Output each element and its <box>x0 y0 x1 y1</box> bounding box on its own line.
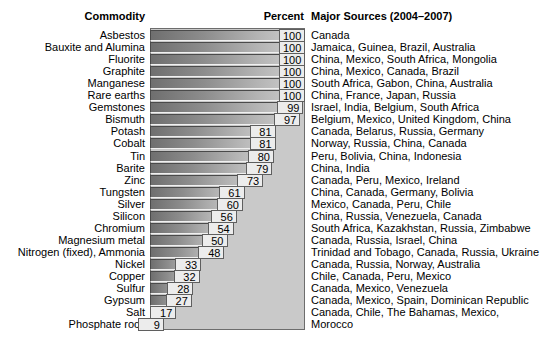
percent-value-label: 100 <box>279 65 305 78</box>
percent-value-label: 27 <box>166 294 192 307</box>
percent-value-label: 32 <box>174 270 200 283</box>
commodity-label: Bismuth <box>0 113 145 126</box>
major-sources-text: China, Russia, Venezuela, Canada <box>311 210 482 223</box>
table-row: Manganese100South Africa, Gabon, China, … <box>0 77 555 90</box>
commodity-label: Copper <box>0 270 145 283</box>
percent-value-label: 50 <box>202 234 228 247</box>
major-sources-text: Morocco <box>311 318 353 331</box>
commodity-label: Tungsten <box>0 186 145 199</box>
commodity-label: Cobalt <box>0 137 145 150</box>
percent-value-label: 100 <box>279 89 305 102</box>
major-sources-text: Peru, Bolivia, China, Indonesia <box>311 150 461 163</box>
major-sources-text: Trinidad and Tobago, Canada, Russia, Ukr… <box>311 246 539 259</box>
commodity-label: Silver <box>0 198 145 211</box>
percent-value-label: 100 <box>279 53 305 66</box>
percent-value-label: 100 <box>279 41 305 54</box>
commodity-label: Nickel <box>0 258 145 271</box>
commodity-label: Tin <box>0 150 145 163</box>
commodity-label: Rare earths <box>0 89 145 102</box>
major-sources-text: Norway, Russia, China, Canada <box>311 137 467 150</box>
table-row: Silver60Mexico, Canada, Peru, Chile <box>0 198 555 211</box>
percent-value-label: 48 <box>198 246 224 259</box>
major-sources-text: Chile, Canada, Peru, Mexico <box>311 270 451 283</box>
major-sources-text: Canada, Mexico, Spain, Dominican Republi… <box>311 294 529 307</box>
commodity-label: Silicon <box>0 210 145 223</box>
table-row: Bauxite and Alumina100Jamaica, Guinea, B… <box>0 41 555 54</box>
major-sources-text: Canada, Russia, Norway, Australia <box>311 258 480 271</box>
commodity-label: Sulfur <box>0 282 145 295</box>
commodity-label: Gemstones <box>0 101 145 114</box>
table-row: Barite79China, India <box>0 162 555 175</box>
commodity-label: Fluorite <box>0 53 145 66</box>
table-row: Magnesium metal50Canada, Russia, Israel,… <box>0 234 555 247</box>
percent-value-label: 9 <box>138 318 164 331</box>
commodity-label: Barite <box>0 162 145 175</box>
table-row: Silicon56China, Russia, Venezuela, Canad… <box>0 210 555 223</box>
major-sources-text: Canada, Russia, Israel, China <box>311 234 457 247</box>
column-header-major-sources: Major Sources (2004–2007) <box>311 10 452 22</box>
table-row: Nitrogen (fixed), Ammonia48Trinidad and … <box>0 246 555 259</box>
table-row: Chromium54South Africa, Kazakhstan, Russ… <box>0 222 555 235</box>
percent-value-label: 81 <box>250 125 276 138</box>
major-sources-text: South Africa, Gabon, China, Australia <box>311 77 493 90</box>
percent-value-label: 73 <box>237 174 263 187</box>
table-row: Fluorite100China, Mexico, South Africa, … <box>0 53 555 66</box>
table-row: Gemstones99Israel, India, Belgium, South… <box>0 101 555 114</box>
commodity-label: Gypsum <box>0 294 145 307</box>
percent-value-label: 56 <box>211 210 237 223</box>
commodity-label: Magnesium metal <box>0 234 145 247</box>
table-row: Potash81Canada, Belarus, Russia, Germany <box>0 125 555 138</box>
major-sources-text: Jamaica, Guinea, Brazil, Australia <box>311 41 475 54</box>
table-row: Rare earths100China, France, Japan, Russ… <box>0 89 555 102</box>
percent-value-label: 100 <box>279 29 305 42</box>
percent-value-label: 61 <box>219 186 245 199</box>
commodity-label: Graphite <box>0 65 145 78</box>
percent-value-label: 100 <box>279 77 305 90</box>
column-header-percent: Percent <box>150 10 304 22</box>
major-sources-text: China, Mexico, South Africa, Mongolia <box>311 53 497 66</box>
commodity-label: Salt <box>0 306 145 319</box>
major-sources-text: South Africa, Kazakhstan, Russia, Zimbab… <box>311 222 531 235</box>
table-row: Nickel33Canada, Russia, Norway, Australi… <box>0 258 555 271</box>
commodity-import-reliance-chart: Commodity Percent Major Sources (2004–20… <box>0 0 555 342</box>
percent-value-label: 28 <box>167 282 193 295</box>
percent-value-label: 54 <box>208 222 234 235</box>
table-row: Zinc73Canada, Peru, Mexico, Ireland <box>0 174 555 187</box>
percent-value-label: 97 <box>274 113 300 126</box>
major-sources-text: Canada, Chile, The Bahamas, Mexico, <box>311 306 499 319</box>
table-row: Copper32Chile, Canada, Peru, Mexico <box>0 270 555 283</box>
table-row: Tin80Peru, Bolivia, China, Indonesia <box>0 150 555 163</box>
commodity-label: Asbestos <box>0 29 145 42</box>
major-sources-text: China, Mexico, Canada, Brazil <box>311 65 459 78</box>
table-row: Asbestos100Canada <box>0 29 555 42</box>
table-row: Phosphate rock9Morocco <box>0 318 555 331</box>
table-row: Tungsten61China, Canada, Germany, Bolivi… <box>0 186 555 199</box>
commodity-label: Chromium <box>0 222 145 235</box>
commodity-label: Manganese <box>0 77 145 90</box>
percent-value-label: 79 <box>246 162 272 175</box>
major-sources-text: Belgium, Mexico, United Kingdom, China <box>311 113 511 126</box>
commodity-label: Zinc <box>0 174 145 187</box>
major-sources-text: Canada, Peru, Mexico, Ireland <box>311 174 460 187</box>
table-row: Salt17Canada, Chile, The Bahamas, Mexico… <box>0 306 555 319</box>
major-sources-text: China, Canada, Germany, Bolivia <box>311 186 473 199</box>
percent-value-label: 81 <box>250 137 276 150</box>
commodity-label: Potash <box>0 125 145 138</box>
percent-value-label: 99 <box>277 101 303 114</box>
commodity-label: Phosphate rock <box>0 318 145 331</box>
major-sources-text: China, India <box>311 162 370 175</box>
column-header-commodity: Commodity <box>0 10 145 22</box>
commodity-label: Nitrogen (fixed), Ammonia <box>0 246 145 259</box>
percent-value-label: 17 <box>150 306 176 319</box>
major-sources-text: Mexico, Canada, Peru, Chile <box>311 198 451 211</box>
major-sources-text: Israel, India, Belgium, South Africa <box>311 101 479 114</box>
major-sources-text: Canada, Belarus, Russia, Germany <box>311 125 484 138</box>
major-sources-text: Canada, Mexico, Venezuela <box>311 282 448 295</box>
table-row: Graphite100China, Mexico, Canada, Brazil <box>0 65 555 78</box>
commodity-label: Bauxite and Alumina <box>0 41 145 54</box>
table-row: Cobalt81Norway, Russia, China, Canada <box>0 137 555 150</box>
table-row: Bismuth97Belgium, Mexico, United Kingdom… <box>0 113 555 126</box>
table-row: Sulfur28Canada, Mexico, Venezuela <box>0 282 555 295</box>
percent-value-label: 33 <box>175 258 201 271</box>
percent-value-label: 80 <box>248 150 274 163</box>
